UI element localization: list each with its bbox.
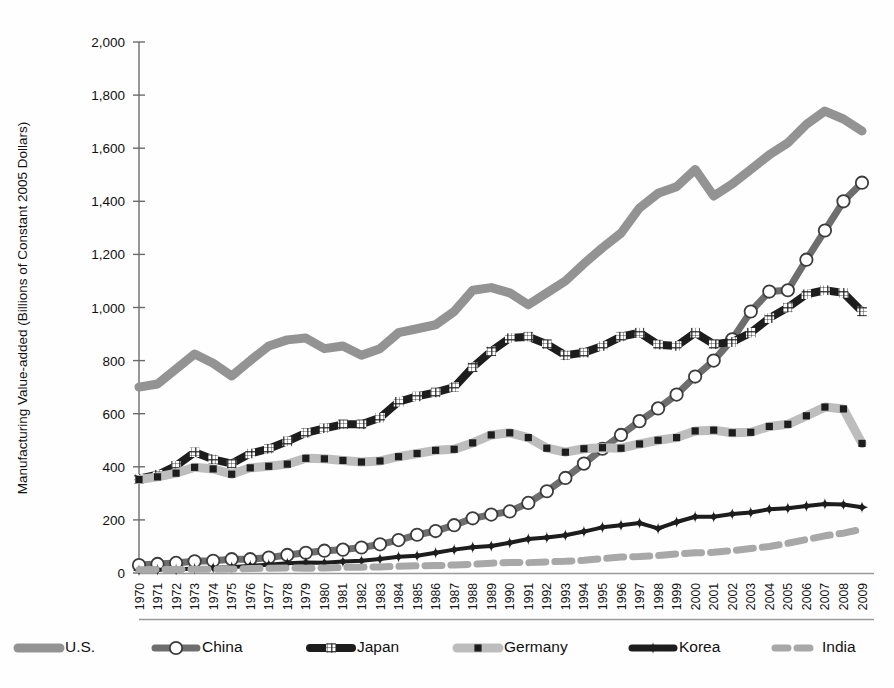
x-tick-label: 1996 bbox=[615, 583, 629, 610]
data-point-marker bbox=[541, 485, 553, 497]
data-point-marker bbox=[247, 464, 254, 471]
data-point-marker bbox=[466, 512, 478, 524]
data-point-marker bbox=[449, 382, 459, 392]
data-point-marker bbox=[432, 447, 439, 454]
x-tick-label: 2008 bbox=[837, 583, 851, 610]
data-point-marker bbox=[598, 341, 608, 351]
data-point-marker bbox=[190, 447, 200, 457]
legend-label: Japan bbox=[357, 638, 399, 655]
data-point-marker bbox=[413, 450, 420, 457]
x-tick-label: 1974 bbox=[207, 583, 221, 610]
y-tick-label: 400 bbox=[102, 460, 125, 475]
data-point-marker bbox=[765, 313, 775, 323]
data-point-marker bbox=[522, 497, 534, 509]
data-point-marker bbox=[429, 525, 441, 537]
y-tick-label: 1,000 bbox=[91, 301, 125, 316]
data-point-marker bbox=[784, 421, 791, 428]
x-tick-label: 2000 bbox=[689, 583, 703, 610]
data-point-marker bbox=[615, 429, 627, 441]
data-point-marker bbox=[374, 538, 386, 550]
x-tick-label: 1986 bbox=[429, 583, 443, 610]
data-point-marker bbox=[729, 429, 736, 436]
data-point-marker bbox=[839, 288, 849, 298]
data-point-marker bbox=[636, 440, 643, 447]
data-point-marker bbox=[411, 529, 423, 541]
data-point-marker bbox=[228, 471, 235, 478]
data-point-marker bbox=[485, 508, 497, 520]
data-point-marker bbox=[561, 350, 571, 360]
data-point-marker bbox=[208, 455, 218, 465]
y-tick-label: 1,800 bbox=[91, 88, 125, 103]
data-point-marker bbox=[392, 534, 404, 546]
y-tick-label: 1,400 bbox=[91, 194, 125, 209]
data-point-marker bbox=[154, 473, 161, 480]
data-point-marker bbox=[245, 449, 255, 459]
x-tick-label: 2001 bbox=[707, 583, 721, 610]
data-point-marker bbox=[766, 423, 773, 430]
data-point-marker bbox=[710, 427, 717, 434]
data-point-marker bbox=[337, 543, 349, 555]
data-point-marker bbox=[376, 457, 383, 464]
data-point-marker bbox=[468, 362, 478, 372]
data-point-marker bbox=[357, 420, 367, 430]
data-point-marker bbox=[819, 224, 831, 236]
x-tick-label: 1972 bbox=[170, 583, 184, 610]
data-point-marker bbox=[599, 444, 606, 451]
data-point-marker bbox=[264, 444, 274, 454]
x-tick-label: 1983 bbox=[374, 583, 388, 610]
chart-figure: Manufacturing Value-added (Billions of C… bbox=[0, 0, 894, 688]
data-point-marker bbox=[505, 333, 515, 343]
x-tick-label: 1990 bbox=[503, 583, 517, 610]
x-tick-label: 1982 bbox=[355, 583, 369, 610]
data-point-marker bbox=[395, 453, 402, 460]
y-tick-label: 1,200 bbox=[91, 247, 125, 262]
data-point-marker bbox=[672, 341, 682, 351]
data-point-marker bbox=[616, 332, 626, 342]
x-tick-label: 1980 bbox=[318, 583, 332, 610]
x-tick-label: 1995 bbox=[596, 583, 610, 610]
data-point-marker bbox=[358, 458, 365, 465]
x-tick-label: 1997 bbox=[633, 583, 647, 610]
data-point-marker bbox=[227, 459, 237, 469]
x-tick-label: 1977 bbox=[262, 583, 276, 610]
data-point-marker bbox=[580, 445, 587, 452]
x-tick-label: 1976 bbox=[244, 583, 258, 610]
x-tick-label: 1973 bbox=[188, 583, 202, 610]
data-point-marker bbox=[802, 289, 812, 299]
x-tick-label: 1993 bbox=[559, 583, 573, 610]
x-tick-label: 1979 bbox=[299, 583, 313, 610]
x-tick-label: 2004 bbox=[763, 583, 777, 610]
y-tick-label: 600 bbox=[102, 407, 125, 422]
data-point-marker bbox=[654, 437, 661, 444]
legend-label: U.S. bbox=[65, 638, 95, 655]
x-tick-label: 1984 bbox=[392, 583, 406, 610]
x-tick-label: 1989 bbox=[485, 583, 499, 610]
data-point-marker bbox=[579, 348, 589, 358]
legend-marker bbox=[326, 643, 336, 653]
data-point-marker bbox=[524, 332, 534, 342]
y-tick-label: 1,600 bbox=[91, 141, 125, 156]
data-point-marker bbox=[265, 463, 272, 470]
data-point-marker bbox=[652, 402, 664, 414]
data-point-marker bbox=[488, 431, 495, 438]
data-point-marker bbox=[763, 285, 775, 297]
data-point-marker bbox=[506, 429, 513, 436]
data-point-marker bbox=[746, 328, 756, 338]
data-point-marker bbox=[800, 254, 812, 266]
x-tick-label: 1987 bbox=[448, 583, 462, 610]
data-point-marker bbox=[504, 505, 516, 517]
x-tick-label: 2006 bbox=[800, 583, 814, 610]
data-point-marker bbox=[857, 307, 867, 317]
data-point-marker bbox=[673, 434, 680, 441]
data-point-marker bbox=[782, 284, 794, 296]
data-point-marker bbox=[318, 544, 330, 556]
data-point-marker bbox=[562, 449, 569, 456]
data-point-marker bbox=[412, 392, 422, 402]
data-point-marker bbox=[302, 455, 309, 462]
x-tick-label: 1981 bbox=[336, 583, 350, 610]
x-tick-label: 1985 bbox=[411, 583, 425, 610]
x-tick-label: 1999 bbox=[670, 583, 684, 610]
data-point-marker bbox=[394, 397, 404, 407]
data-point-marker bbox=[837, 195, 849, 207]
data-point-marker bbox=[172, 470, 179, 477]
